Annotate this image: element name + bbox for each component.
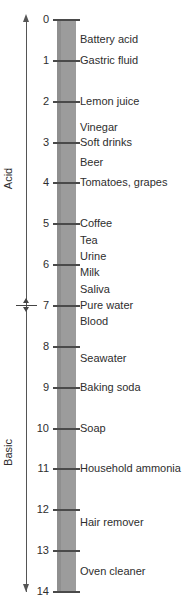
ph-tick-label-2: 2: [0, 96, 49, 107]
ph-tick-6: [53, 264, 80, 266]
ph-tick-2: [53, 101, 80, 103]
substance-label: Gastric fluid: [80, 55, 138, 66]
substance-label: Soft drinks: [80, 137, 132, 148]
substance-label: Hair remover: [80, 517, 144, 528]
ph-tick-label-11: 11: [0, 463, 49, 474]
ph-tick-3: [53, 142, 80, 144]
substance-label: Oven cleaner: [80, 566, 145, 577]
ph-tick-label-13: 13: [0, 545, 49, 556]
ph-tick-label-7: 7: [0, 300, 49, 311]
ph-tick-4: [53, 182, 80, 184]
substance-label: Urine: [80, 251, 106, 262]
ph-tick-label-6: 6: [0, 259, 49, 270]
substance-label: Tomatoes, grapes: [80, 177, 167, 188]
ph-tick-12: [53, 509, 80, 511]
ph-tick-0: [53, 19, 80, 21]
ph-tick-13: [53, 550, 80, 552]
substance-label: Soap: [80, 423, 106, 434]
ph-tick-label-4: 4: [0, 177, 49, 188]
ph-tick-label-8: 8: [0, 341, 49, 352]
ph-tick-label-10: 10: [0, 423, 49, 434]
substance-label: Coffee: [80, 218, 112, 229]
ph-tick-1: [53, 60, 80, 62]
ph-tick-8: [53, 346, 80, 348]
substance-label: Seawater: [80, 353, 126, 364]
substance-label: Pure water: [80, 300, 133, 311]
ph-tick-label-5: 5: [0, 218, 49, 229]
ph-tick-14: [53, 591, 80, 593]
ph-tick-label-12: 12: [0, 504, 49, 515]
ph-tick-11: [53, 468, 80, 470]
substance-label: Baking soda: [80, 382, 141, 393]
ph-tick-10: [53, 428, 80, 430]
substance-label: Battery acid: [80, 34, 138, 45]
ph-tick-label-14: 14: [0, 586, 49, 597]
substance-label: Vinegar: [80, 122, 118, 133]
substance-label: Saliva: [80, 284, 110, 295]
substance-label: Tea: [80, 235, 98, 246]
ph-tick-label-0: 0: [0, 14, 49, 25]
substance-label: Household ammonia: [80, 463, 181, 474]
substance-label: Milk: [80, 267, 100, 278]
ph-tick-label-3: 3: [0, 137, 49, 148]
substance-label: Beer: [80, 157, 103, 168]
substance-label: Lemon juice: [80, 96, 139, 107]
ph-tick-9: [53, 387, 80, 389]
ph-tick-label-1: 1: [0, 55, 49, 66]
ph-scale-diagram: Acid Basic 01234567891011121314 Battery …: [0, 0, 184, 609]
ph-tick-label-9: 9: [0, 382, 49, 393]
ph-tick-7: [53, 305, 80, 307]
ph-tick-5: [53, 223, 80, 225]
substance-label: Blood: [80, 316, 108, 327]
